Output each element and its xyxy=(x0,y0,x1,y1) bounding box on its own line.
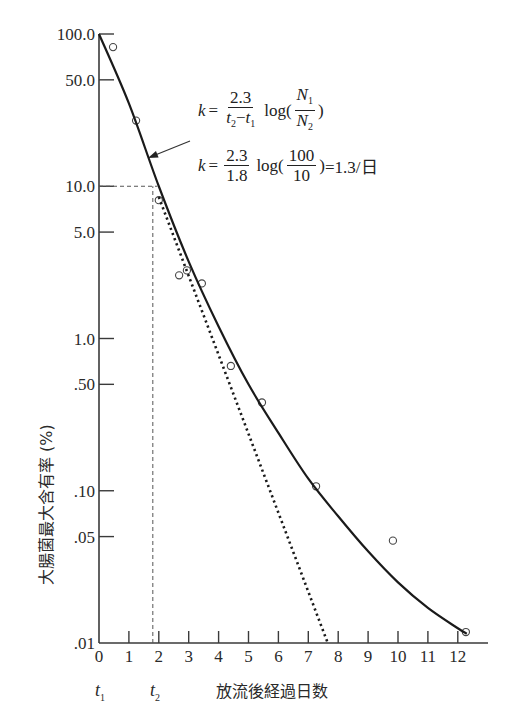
t1-label: t1 xyxy=(95,680,105,703)
ratio-numerator: N1 xyxy=(295,85,315,111)
y-tick-label: 50.0 xyxy=(65,71,95,90)
result-text: =1.3/日 xyxy=(325,153,378,178)
ratio-denominator: N2 xyxy=(295,111,315,136)
y-tick-label: .01 xyxy=(74,634,95,653)
x-tick-label: 6 xyxy=(274,647,283,666)
fraction-rate: 2.3 1.8 xyxy=(224,146,249,185)
y-tick-label: .50 xyxy=(74,375,95,394)
fraction-ratio: 100 10 xyxy=(287,146,317,185)
fraction-denominator: 1.8 xyxy=(224,166,249,185)
y-tick-label: .10 xyxy=(74,482,95,501)
fraction-numerator: 2.3 xyxy=(228,88,253,108)
x-tick-label: 2 xyxy=(155,647,164,666)
t2-label: t2 xyxy=(150,680,160,703)
n2-symbol: N xyxy=(297,111,308,130)
x-tick-label: 9 xyxy=(364,647,373,666)
k-variable: k xyxy=(198,156,206,176)
fraction-rate: 2.3 t2−t1 xyxy=(224,88,257,133)
fraction-numerator: 2.3 xyxy=(224,146,249,166)
y-tick-label: 1.0 xyxy=(74,330,95,349)
data-point xyxy=(227,362,234,369)
t1-subscript: 1 xyxy=(100,692,105,703)
data-point xyxy=(389,537,396,544)
x-tick-label: 4 xyxy=(214,647,223,666)
x-tick-label: 11 xyxy=(420,647,436,666)
log-text: log( xyxy=(264,101,291,121)
x-tick-label: 5 xyxy=(244,647,253,666)
x-tick-label: 8 xyxy=(334,647,343,666)
x-tick-label: 10 xyxy=(390,647,407,666)
data-point xyxy=(176,272,183,279)
initial-slope-dotted-line xyxy=(159,197,328,643)
annotations xyxy=(99,141,190,643)
ratio-numerator: 100 xyxy=(287,146,317,166)
y-tick-label: 100.0 xyxy=(57,25,95,44)
x-tick-label: 3 xyxy=(184,647,193,666)
ratio-denominator: 10 xyxy=(291,166,312,185)
x-tick-label: 0 xyxy=(95,647,104,666)
formula-computed: k = 2.3 1.8 log( 100 10 ) =1.3/日 xyxy=(198,146,378,185)
n2-subscript: 2 xyxy=(308,122,313,133)
x-tick-label: 7 xyxy=(304,647,313,666)
t2-subscript: 2 xyxy=(155,692,160,703)
k-variable: k xyxy=(198,101,206,121)
n1-symbol: N xyxy=(297,85,308,104)
y-tick-label: 10.0 xyxy=(65,177,95,196)
n1-subscript: 1 xyxy=(308,95,313,106)
equals-sign: = xyxy=(209,156,219,176)
x-axis-label: 放流後経過日数 xyxy=(216,682,328,701)
y-axis-label: 大腸菌最大含有率 (%) xyxy=(37,424,56,585)
log-text: log( xyxy=(256,156,283,176)
equals-sign: = xyxy=(209,101,219,121)
t1-subscript: 1 xyxy=(250,119,255,130)
data-point xyxy=(109,44,116,51)
x-tick-label: 1 xyxy=(125,647,134,666)
formula-general: k = 2.3 t2−t1 log( N1 N2 ) xyxy=(198,85,324,137)
arrow-head-icon xyxy=(148,151,159,158)
close-paren: ) xyxy=(318,101,324,121)
fraction-ratio: N1 N2 xyxy=(295,85,315,137)
y-tick-label: .05 xyxy=(74,528,95,547)
y-tick-label: 5.0 xyxy=(74,223,95,242)
x-tick-label: 12 xyxy=(449,647,466,666)
fraction-denominator: t2−t1 xyxy=(224,108,257,133)
annotation-arrow-shaft xyxy=(154,141,190,156)
